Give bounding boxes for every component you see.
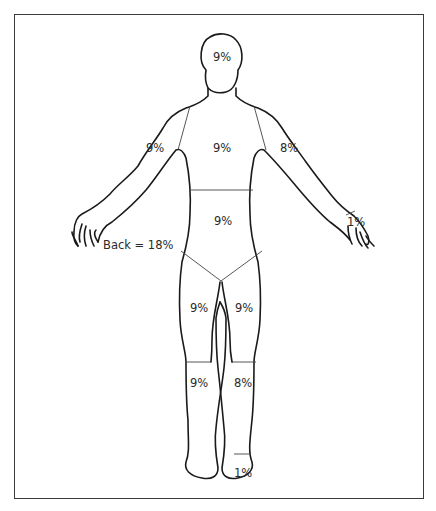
- left-hand-percentage: 1%: [347, 217, 365, 229]
- right-hand-outline: [348, 226, 374, 248]
- chest-percentage: 9%: [213, 143, 231, 155]
- body-outline-figure: [0, 0, 436, 511]
- left-upper-arm-percentage: 8%: [280, 143, 298, 155]
- hip-divider: [181, 251, 262, 281]
- right-thigh-percentage: 9%: [190, 303, 208, 315]
- inner-thigh-outline: [211, 282, 232, 362]
- left-shoulder-divider: [178, 106, 190, 150]
- right-shoulder-divider: [254, 106, 266, 150]
- head-percentage: 9%: [213, 52, 231, 64]
- right-lower-leg-percentage: 9%: [190, 378, 208, 390]
- back-percentage-note: Back = 18%: [103, 238, 173, 252]
- left-foot-percentage: 1%: [234, 468, 252, 480]
- left-lower-leg-percentage: 8%: [234, 378, 252, 390]
- left-hand-outline: [72, 224, 98, 246]
- abdomen-percentage: 9%: [214, 216, 232, 228]
- left-thigh-percentage: 9%: [235, 303, 253, 315]
- right-upper-arm-percentage: 9%: [146, 143, 164, 155]
